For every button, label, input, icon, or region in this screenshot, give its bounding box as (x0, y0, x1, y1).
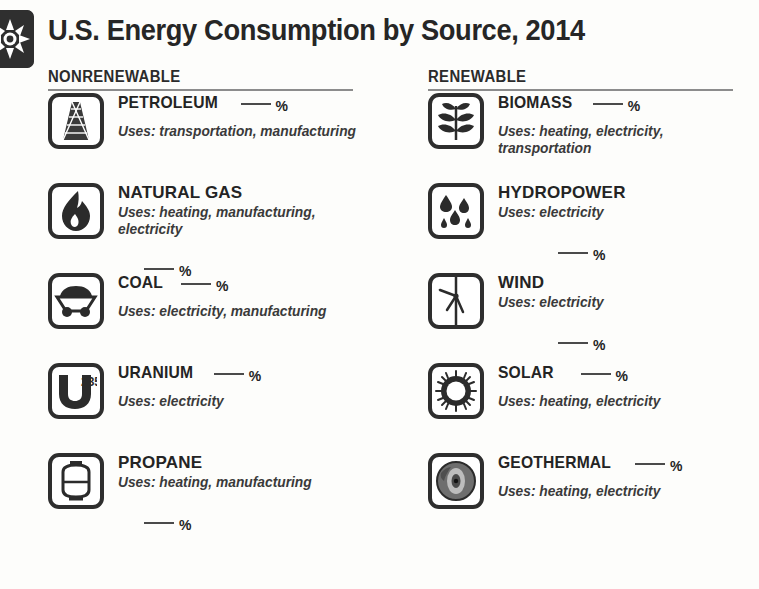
eia-sunburst-logo-icon (0, 10, 34, 68)
percent-symbol: % (628, 98, 640, 114)
page-header: U.S. Energy Consumption by Source, 2014 (0, 6, 759, 68)
blank-line (635, 463, 665, 465)
source-uses: Uses: electricity (498, 294, 755, 311)
list-item-text: NATURAL GAS Uses: heating, manufacturing… (104, 181, 388, 265)
list-item-text: SOLAR % Uses: heating, electricity (484, 361, 759, 410)
list-item-text: PETROLEUM % Uses: transportation, manufa… (104, 91, 388, 140)
source-uses: Uses: electricity (118, 393, 375, 410)
coal-cart-icon (48, 273, 104, 329)
water-droplets-icon (428, 183, 484, 239)
list-item[interactable]: HYDROPOWER Uses: electricity % (428, 181, 759, 271)
percent-blank[interactable]: % (181, 286, 228, 302)
wind-turbine-icon (428, 273, 484, 329)
source-name: HYDROPOWER (498, 183, 626, 202)
percent-blank[interactable]: % (144, 525, 191, 541)
source-uses: Uses: heating, manufacturing (118, 474, 375, 491)
list-item[interactable]: PROPANE Uses: heating, manufacturing % (48, 451, 388, 541)
source-name: PROPANE (118, 453, 202, 472)
list-item[interactable]: WIND Uses: electricity % (428, 271, 759, 361)
percent-blank[interactable]: % (241, 106, 288, 122)
list-item[interactable]: NATURAL GAS Uses: heating, manufacturing… (48, 181, 388, 271)
source-name: SOLAR (498, 363, 554, 383)
list-item[interactable]: GEOTHERMAL % Uses: heating, electricity (428, 451, 759, 541)
list-item-text: COAL % Uses: electricity, manufacturing (104, 271, 388, 320)
percent-symbol: % (593, 337, 605, 353)
list-item-text: GEOTHERMAL % Uses: heating, electricity (484, 451, 759, 500)
oil-derrick-icon (48, 93, 104, 149)
percent-symbol: % (593, 247, 605, 263)
blank-line (558, 342, 588, 344)
source-uses: Uses: heating, manufacturing, electricit… (118, 204, 375, 237)
source-name: BIOMASS (498, 93, 572, 113)
svg-text:235: 235 (81, 375, 97, 389)
percent-symbol: % (179, 517, 191, 533)
list-item-text: URANIUM % Uses: electricity (104, 361, 388, 410)
percent-blank[interactable]: % (635, 466, 682, 482)
list-item[interactable]: PETROLEUM % Uses: transportation, manufa… (48, 91, 388, 181)
column-nonrenewable: NONRENEWABLE PE (48, 68, 388, 541)
source-uses: Uses: electricity, manufacturing (118, 303, 375, 320)
percent-blank[interactable]: % (558, 255, 605, 271)
column-renewable: RENEWABLE BIOMASS (428, 68, 759, 541)
blank-line (558, 252, 588, 254)
source-name: COAL (118, 273, 163, 293)
uranium-u235-icon: 235 (48, 363, 104, 419)
percent-blank[interactable]: % (593, 106, 640, 122)
percent-symbol: % (616, 368, 628, 384)
column-heading-renewable: RENEWABLE (428, 68, 744, 86)
list-item[interactable]: SOLAR % Uses: heating, electricity (428, 361, 759, 451)
plant-leaves-icon (428, 93, 484, 149)
source-uses: Uses: electricity (498, 204, 755, 221)
percent-symbol: % (216, 278, 228, 294)
blank-line (181, 283, 211, 285)
blank-line (593, 103, 623, 105)
percent-symbol: % (249, 368, 261, 384)
blank-line (581, 373, 611, 375)
propane-tank-icon (48, 453, 104, 509)
source-name: GEOTHERMAL (498, 453, 611, 473)
blank-line (144, 522, 174, 524)
column-heading-nonrenewable: NONRENEWABLE (48, 68, 364, 86)
source-name: URANIUM (118, 363, 193, 383)
blank-line (241, 103, 271, 105)
source-name: PETROLEUM (118, 93, 218, 113)
source-name: NATURAL GAS (118, 183, 242, 202)
blank-line (214, 373, 244, 375)
list-item[interactable]: 235 URANIUM % Uses: electricity (48, 361, 388, 451)
list-item[interactable]: BIOMASS % Uses: heating, electricity, tr… (428, 91, 759, 181)
percent-blank[interactable]: % (214, 376, 261, 392)
percent-blank[interactable]: % (581, 376, 628, 392)
source-uses: Uses: heating, electricity (498, 483, 755, 500)
percent-symbol: % (276, 98, 288, 114)
page-title: U.S. Energy Consumption by Source, 2014 (48, 14, 585, 47)
earth-cross-section-icon (428, 453, 484, 509)
source-columns: NONRENEWABLE PE (0, 68, 759, 588)
source-name: WIND (498, 273, 544, 292)
percent-blank[interactable]: % (558, 345, 605, 361)
list-item-text: HYDROPOWER Uses: electricity % (484, 181, 759, 249)
flame-icon (48, 183, 104, 239)
sun-icon (428, 363, 484, 419)
list-item-text: PROPANE Uses: heating, manufacturing % (104, 451, 388, 519)
source-uses: Uses: transportation, manufacturing (118, 123, 375, 140)
blank-line (144, 268, 174, 270)
list-item-text: WIND Uses: electricity % (484, 271, 759, 339)
percent-symbol: % (670, 458, 682, 474)
list-item-text: BIOMASS % Uses: heating, electricity, tr… (484, 91, 759, 156)
source-uses: Uses: heating, electricity, transportati… (498, 123, 755, 156)
list-item[interactable]: COAL % Uses: electricity, manufacturing (48, 271, 388, 361)
source-uses: Uses: heating, electricity (498, 393, 755, 410)
